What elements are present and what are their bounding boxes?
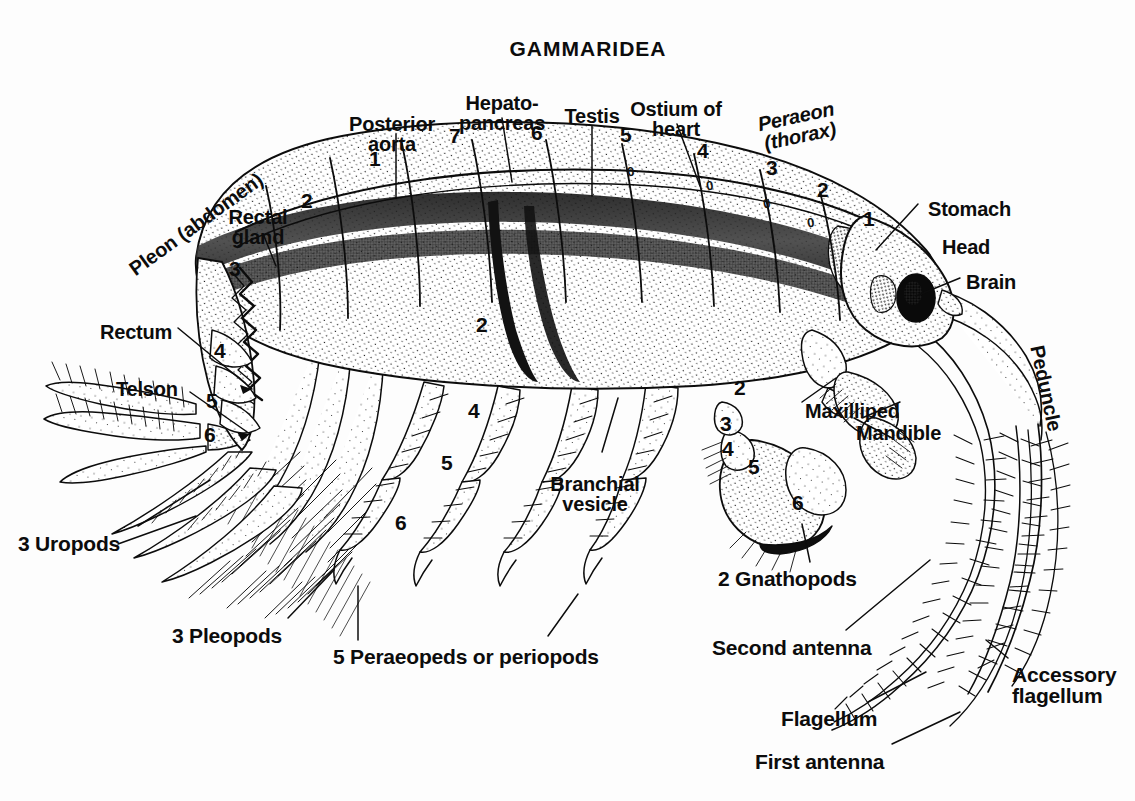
segment-number-gnath-4: 4 [722, 438, 734, 459]
segment-number-leg-a-4: 4 [468, 400, 480, 421]
label-title: GAMMARIDEA [510, 38, 667, 59]
segment-number-peraeon-6: 6 [531, 122, 543, 143]
segment-number-leg-a-2: 2 [476, 314, 488, 335]
label-stomach: Stomach [928, 199, 1011, 219]
label-three-uropods: 3 Uropods [18, 533, 120, 554]
label-second-antenna: Second antenna [712, 637, 871, 658]
label-rectum: Rectum [100, 322, 172, 342]
segment-number-pleon-5: 5 [206, 390, 218, 411]
segment-number-gnath-6: 6 [792, 492, 804, 513]
label-two-gnathopods: 2 Gnathopods [718, 568, 857, 589]
segment-number-pleon-4: 4 [214, 340, 226, 361]
segment-number-peraeon-7: 7 [449, 125, 461, 146]
label-accessory-flagellum: Accessory flagellum [1012, 664, 1116, 707]
segment-number-pleon-6: 6 [204, 424, 216, 445]
segment-number-peraeon-3: 3 [766, 157, 778, 178]
segment-number-peraeon-4: 4 [697, 140, 709, 161]
segment-number-pleon-3: 3 [229, 258, 241, 279]
segment-number-peraeon-2: 2 [817, 179, 829, 200]
segment-number-pleon-2: 2 [301, 190, 313, 211]
label-ostium-of-heart: Ostium of heart [630, 99, 722, 140]
segment-number-gnath-3: 3 [720, 413, 732, 434]
segment-number-pleon-1: 1 [369, 148, 381, 169]
accessory-flagellum-art [978, 432, 1070, 686]
label-mandible: Mandible [856, 423, 941, 443]
label-posterior-aorta: Posterior aorta [349, 114, 435, 155]
segment-number-leg-a-6: 6 [395, 512, 407, 533]
segment-number-gnath-2: 2 [734, 377, 746, 398]
anatomical-plate: GAMMARIDEAPosterior aortaHepato- pancrea… [0, 0, 1135, 801]
segment-number-peraeon-5: 5 [620, 124, 632, 145]
label-telson: Telson [116, 379, 178, 399]
label-brain: Brain [966, 272, 1016, 292]
segment-number-leg-a-5: 5 [441, 452, 453, 473]
label-first-antenna: First antenna [755, 751, 884, 772]
segment-number-gnath-5: 5 [748, 456, 760, 477]
label-three-pleopods: 3 Pleopods [172, 625, 282, 646]
label-flagellum: Flagellum [781, 708, 877, 729]
label-head: Head [942, 237, 990, 257]
label-rectal-gland: Rectal gland [229, 207, 288, 248]
label-five-peraeopeds: 5 Peraeopeds or periopods [333, 646, 599, 667]
label-maxilliped: Maxilliped [805, 401, 900, 421]
label-branchial-vesicle: Branchial vesicle [550, 474, 639, 515]
segment-number-peraeon-1: 1 [863, 208, 875, 229]
label-testis: Testis [564, 106, 619, 126]
